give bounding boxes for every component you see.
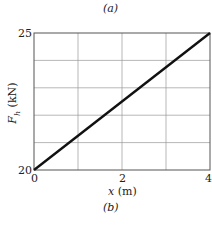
caption-b: (b) <box>103 202 119 213</box>
x-axis-label: x (m) <box>108 186 137 197</box>
ytick-20: 20 <box>18 165 32 176</box>
xtick-2: 2 <box>119 173 126 184</box>
y-axis-label: Fh (kN) <box>7 83 21 124</box>
ytick-25: 25 <box>18 28 32 39</box>
xtick-4: 4 <box>205 173 212 184</box>
xtick-0: 0 <box>31 173 38 184</box>
